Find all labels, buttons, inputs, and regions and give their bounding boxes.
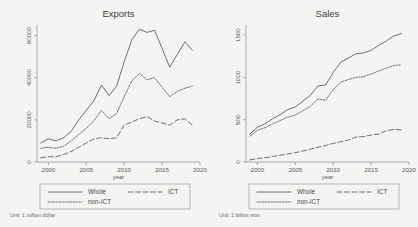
x-tick-label: 2010 xyxy=(117,166,131,173)
unit-note: Unit: 1 million dollar xyxy=(10,212,56,218)
series-line-whole xyxy=(250,33,402,134)
x-tick-label: 2020 xyxy=(402,166,416,173)
y-tick-label: 40000 xyxy=(25,69,32,87)
legend-label-ict: ICT xyxy=(168,188,178,195)
y-tick-label: 1000 xyxy=(234,70,241,84)
legend-label-ict: ICT xyxy=(377,188,387,195)
x-tick-label: 2020 xyxy=(193,166,207,173)
chart-panel-exports: Exports020000400006000020002005201020152… xyxy=(0,0,209,227)
unit-note: Unit: 1 billion won xyxy=(219,212,260,218)
x-tick-label: 2000 xyxy=(41,166,55,173)
legend-label-non-ict: non-ICT xyxy=(88,198,111,205)
series-line-non-ict xyxy=(250,65,402,136)
x-tick-label: 2010 xyxy=(326,166,340,173)
chart-panel-sales: Sales05001000150020002005201020152020yea… xyxy=(209,0,418,227)
y-tick-label: 60000 xyxy=(25,26,32,44)
x-tick-label: 2000 xyxy=(250,166,264,173)
panel-title: Sales xyxy=(316,8,340,19)
x-tick-label: 2015 xyxy=(364,166,378,173)
y-tick-label: 0 xyxy=(25,160,32,164)
x-axis-title: year xyxy=(113,174,125,180)
x-tick-label: 2005 xyxy=(79,166,93,173)
legend-label-non-ict: non-ICT xyxy=(297,198,320,205)
panel-title: Exports xyxy=(102,8,134,19)
y-tick-label: 500 xyxy=(234,114,241,125)
series-line-whole xyxy=(41,29,193,143)
series-line-ict xyxy=(250,129,402,159)
x-tick-label: 2005 xyxy=(288,166,302,173)
legend-label-whole: Whole xyxy=(297,188,316,195)
legend-label-whole: Whole xyxy=(88,188,107,195)
y-tick-label: 20000 xyxy=(25,111,32,129)
x-tick-label: 2015 xyxy=(155,166,169,173)
y-tick-label: 0 xyxy=(234,160,241,164)
x-axis-title: year xyxy=(322,174,334,180)
figure-container: Exports020000400006000020002005201020152… xyxy=(0,0,418,227)
y-tick-label: 1500 xyxy=(234,28,241,42)
